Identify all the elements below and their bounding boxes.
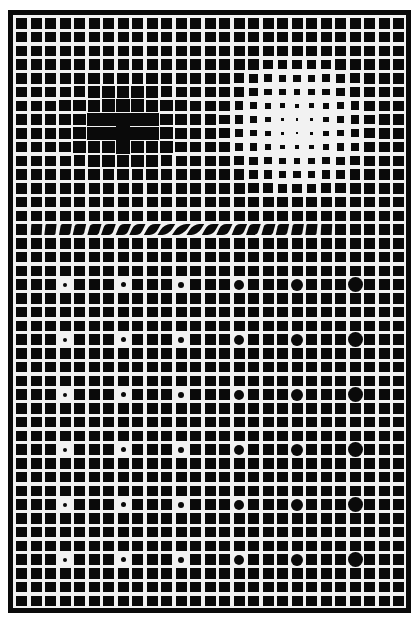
grid-square — [219, 403, 230, 414]
grid-square — [263, 238, 274, 249]
grid-square — [321, 444, 332, 455]
grid-square — [265, 144, 271, 150]
grid-square — [74, 417, 85, 428]
grid-square — [235, 129, 244, 137]
grid-square — [31, 279, 42, 290]
grid-square — [335, 486, 346, 497]
grid-square — [335, 417, 346, 428]
grid-square — [219, 279, 230, 290]
grid-square — [335, 307, 346, 318]
grid-square — [131, 141, 144, 154]
grid-square — [132, 541, 143, 552]
grid-square — [45, 513, 56, 524]
grid-square — [364, 59, 375, 70]
grid-square — [309, 145, 314, 150]
grid-square — [278, 60, 287, 69]
grid-square — [16, 18, 27, 29]
grid-square — [296, 132, 299, 134]
grid-square — [190, 156, 201, 167]
grid-square — [379, 183, 390, 194]
grid-square — [161, 279, 172, 290]
grid-square — [118, 568, 129, 579]
grid-square — [364, 362, 375, 373]
grid-square — [234, 307, 245, 318]
grid-square — [60, 541, 71, 552]
grid-square — [161, 596, 172, 607]
grid-square — [205, 87, 216, 98]
grid-square — [350, 59, 361, 70]
grid-square — [190, 348, 201, 359]
grid-square — [277, 444, 288, 455]
grid-square — [306, 46, 317, 57]
grid-square — [306, 18, 317, 29]
grid-square — [263, 527, 274, 538]
grid-square — [147, 513, 158, 524]
grid-square — [321, 18, 332, 29]
grid-square — [393, 128, 404, 139]
grid-square — [219, 444, 230, 455]
grid-square — [145, 127, 158, 140]
grid-square — [350, 541, 361, 552]
grid-square — [161, 348, 172, 359]
grid-square — [89, 46, 100, 57]
grid-square — [103, 18, 114, 29]
grid-square — [74, 307, 85, 318]
grid-square — [103, 321, 114, 332]
grid-square — [60, 472, 71, 483]
grid-square — [321, 596, 332, 607]
grid-square — [205, 169, 216, 180]
grid-square — [176, 307, 187, 318]
grid-square — [277, 266, 288, 277]
grid-square — [277, 279, 288, 290]
grid-square — [292, 184, 301, 193]
grid-square — [132, 183, 143, 194]
grid-square — [118, 431, 129, 442]
grid-square — [147, 46, 158, 57]
grid-square — [379, 252, 390, 263]
grid-square — [190, 307, 201, 318]
grid-square — [335, 293, 346, 304]
grid-square — [219, 554, 230, 565]
grid-square — [205, 513, 216, 524]
grid-square — [248, 499, 259, 510]
grid-square — [45, 238, 56, 249]
grid-square — [295, 145, 299, 149]
grid-square — [31, 458, 42, 469]
grid-square — [132, 238, 143, 249]
grid-square — [190, 541, 201, 552]
grid-square — [116, 126, 131, 140]
grid-square — [190, 458, 201, 469]
grid-square — [350, 293, 361, 304]
grid-square — [147, 348, 158, 359]
grid-square — [147, 334, 158, 345]
dot — [234, 555, 244, 565]
grid-square — [219, 486, 230, 497]
grid-square — [60, 362, 71, 373]
grid-square — [322, 170, 331, 178]
grid-square — [350, 169, 361, 179]
grid-square — [16, 486, 27, 497]
grid-square — [306, 596, 317, 607]
grid-square — [31, 596, 42, 607]
grid-square — [321, 486, 332, 497]
grid-square — [263, 458, 274, 469]
grid-square — [118, 582, 129, 593]
grid-square — [205, 321, 216, 332]
grid-square — [45, 101, 56, 112]
grid-square — [16, 499, 27, 510]
grid-square — [118, 46, 129, 57]
grid-square — [89, 376, 100, 387]
grid-square — [250, 102, 257, 109]
grid-square — [31, 582, 42, 593]
grid-square — [103, 279, 114, 290]
grid-square — [205, 183, 216, 194]
grid-square — [351, 129, 360, 137]
grid-square — [335, 266, 346, 277]
grid-square — [45, 376, 56, 387]
grid-square — [321, 238, 332, 249]
grid-square — [249, 88, 257, 96]
grid-square — [87, 113, 100, 126]
grid-square — [277, 321, 288, 332]
grid-square — [118, 183, 129, 194]
grid-square — [31, 472, 42, 483]
